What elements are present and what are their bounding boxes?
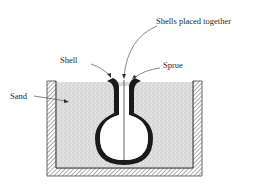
- label-shell: Shell: [60, 55, 78, 65]
- shell-mold-diagram: Shells placed together Shell Sprue Sand: [0, 0, 269, 187]
- label-shells-placed-together: Shells placed together: [156, 16, 231, 26]
- label-sand: Sand: [10, 91, 28, 101]
- label-sprue: Sprue: [163, 60, 183, 70]
